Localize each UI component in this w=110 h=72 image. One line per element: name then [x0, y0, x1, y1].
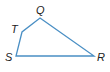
vertex-label-s: S: [5, 51, 13, 63]
vertex-label-t: T: [11, 23, 19, 35]
quadrilateral-diagram: Q R S T: [0, 0, 110, 72]
quadrilateral-QRST: [16, 18, 94, 56]
vertex-label-r: R: [97, 51, 105, 63]
vertex-label-q: Q: [36, 4, 45, 16]
